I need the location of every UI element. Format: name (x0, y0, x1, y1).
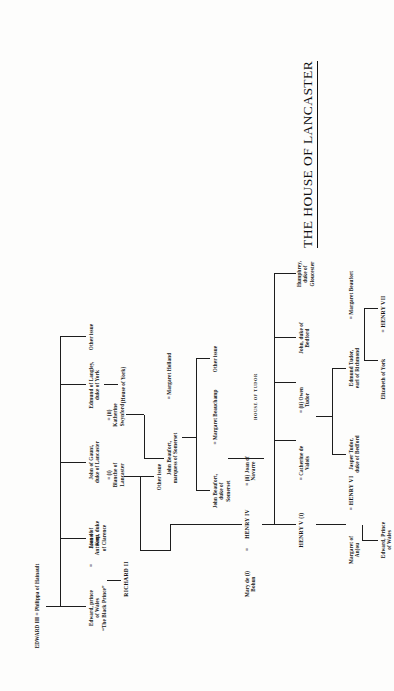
line-h-edward-prince (362, 525, 363, 541)
line-drop-humphrey (274, 382, 296, 383)
line-drop-edward-prince (362, 540, 378, 541)
line-drop-black-prince (60, 606, 86, 607)
line-edward3-drop (46, 606, 60, 607)
line-drop-henry7 (364, 308, 378, 309)
line-h-henry7 (364, 309, 365, 361)
node-lionel: Lionel of Antwerp, duke of Clarence (88, 507, 107, 569)
line-drop-john-gaunt (60, 462, 86, 463)
node-john-beaufort-marquess: John Beaufort, marquess of Somerset (166, 415, 179, 501)
line-drop-jasper-tudor (332, 454, 346, 455)
node-owen-tudor: = (ii) Owen Tudor (298, 373, 311, 427)
line-drop-other-issue-gaunt (140, 476, 154, 477)
line-drop-marquess-issue (182, 437, 196, 438)
node-blanche-lancaster: = (i) Blanche of Lancaster (106, 445, 125, 505)
node-margaret-anjou: Margaret of Anjou (348, 521, 361, 579)
line-drop-henry5 (274, 524, 296, 525)
node-edward-prince-wales: Edward, Prince of Wales (380, 507, 393, 573)
line-drop-other-issue-top (60, 336, 86, 337)
line-bus-henry4-issue-ext (274, 274, 275, 525)
node-elizabeth-york: Elizabeth of York (380, 343, 386, 415)
line-bus-marquess-issue (196, 359, 197, 491)
line-drop-blanche-issue (124, 476, 140, 477)
page-title: THE HOUSE OF LANCASTER (300, 61, 318, 248)
node-humphrey-gloucester: Humphrey, duke of Gloucester (296, 245, 315, 303)
line-drop-richard2 (107, 580, 121, 581)
line-bus-blanche-issue (140, 477, 141, 551)
node-henry5: HENRY V (i) (298, 499, 305, 561)
node-jasper-tudor: Jasper Tudor, duke of Bedford (348, 421, 361, 487)
line-drop-tudor-issue (316, 416, 332, 417)
line-drop-swynford-issue (126, 414, 144, 415)
rotated-chart-canvas: EDWARD III = Philippa of Hainault Edward… (0, 0, 394, 691)
node-john-bedford-visible: John, duke of Bedford (298, 307, 311, 369)
line-bus-tudor-issue (332, 369, 333, 455)
line-sibling-bus-gen2 (60, 337, 61, 607)
line-drop-lionel (60, 538, 86, 539)
line-drop-john-bedford-2 (274, 337, 296, 338)
node-mary-bohun: Mary de (i) Bohun (244, 553, 257, 615)
line-drop-other-issue-beaufort (196, 358, 210, 359)
node-house-of-york: (House of York) (120, 351, 126, 419)
line-drop-edmund-tudor (332, 368, 346, 369)
line-drop-edmund-langley (60, 384, 86, 385)
line-drop-john-beaufort-duke (196, 490, 210, 491)
node-black-prince: Edward, prince of Wales “The Black Princ… (88, 569, 107, 647)
node-henry4: HENRY IV (244, 503, 251, 545)
node-john-gaunt: John of Gaunt, duke of Lancaster (88, 419, 101, 505)
line-drop-henry7-2 (364, 360, 378, 361)
house-of-tudor-footer: HOUSE OF TUDOR (253, 373, 258, 420)
node-henry7: = HENRY VII (380, 285, 387, 343)
node-margaret-beauchamp: = Margaret Beauchamp (212, 375, 218, 459)
line-drop-house-york (104, 384, 118, 385)
line-drop-henry6 (316, 524, 346, 525)
node-edmund-tudor: Edmund Tudor, earl of Richmond (348, 333, 361, 403)
node-margaret-holland: = Margaret Holland (166, 339, 172, 413)
node-catherine-valois: = Catherine de Valois (298, 427, 311, 499)
line-henry4-parent-drop (170, 524, 242, 525)
line-drop-john-bedford (274, 440, 296, 441)
node-joan-navarre: = (ii) Joan of Navarre (244, 441, 257, 501)
line-drop-henry4-line (140, 550, 170, 551)
genealogy-canvas: EDWARD III = Philippa of Hainault Edward… (0, 0, 394, 691)
line-drop-henry4-issue (262, 524, 274, 525)
line-drop-humphrey-2 (274, 273, 296, 274)
line-henry4-parent-h (170, 525, 171, 551)
chart-page: EDWARD III = Philippa of Hainault Edward… (0, 0, 394, 691)
line-bus-swynford-issue (144, 415, 145, 459)
node-john-beaufort-duke: John Beaufort, duke of Somerset (212, 461, 231, 521)
line-drop-john-beaufort-marquess (144, 458, 164, 459)
node-richard2: RICHARD II (123, 547, 130, 611)
node-margaret-beaufort: = Margaret Beaufort (348, 257, 354, 333)
node-edward3: EDWARD III = Philippa of Hainault (34, 541, 40, 671)
marriage-equals-henry4-left: = (244, 548, 250, 551)
node-other-issue-top: Other issue (88, 311, 94, 363)
